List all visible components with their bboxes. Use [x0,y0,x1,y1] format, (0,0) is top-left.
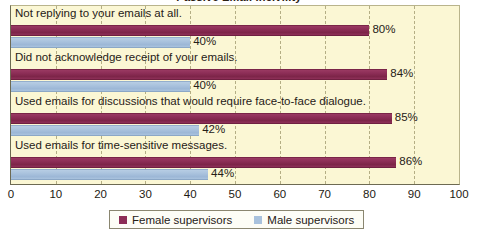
bar-value-label: 40% [190,79,216,91]
bar-row-male: 44% [11,169,459,180]
x-axis: 0102030405060708090100 [10,186,460,202]
bar-value-label: 85% [392,111,418,123]
x-tick-label: 10 [49,188,62,200]
chart-title: Passive Email Incivility [0,0,478,3]
x-tick-label: 20 [94,188,107,200]
x-tick-label: 40 [184,188,197,200]
x-tick-label: 50 [229,188,242,200]
bar-group: Did not acknowledge receipt of your emai… [11,50,459,94]
x-tick-label: 60 [273,188,286,200]
legend-swatch-icon [254,216,262,224]
plot-area: Not replying to your emails at all.80%40… [10,5,460,185]
chart-container: Passive Email Incivility Not replying to… [0,0,478,233]
x-tick-label: 100 [449,188,468,200]
legend-label: Male supervisors [267,214,354,226]
x-tick-label: 90 [408,188,421,200]
bar-row-female: 85% [11,113,459,124]
bar-value-label: 44% [208,167,234,179]
x-tick-label: 30 [139,188,152,200]
bar-row-female: 86% [11,157,459,168]
bar-value-label: 80% [369,23,395,35]
x-tick-label: 0 [8,188,14,200]
bar-row-male: 42% [11,125,459,136]
chart-legend: Female supervisorsMale supervisors [109,210,364,229]
bar-male [11,81,190,92]
bar-value-label: 42% [199,123,225,135]
bar-male [11,37,190,48]
x-tick-label: 80 [363,188,376,200]
category-label: Used emails for time-sensitive messages. [15,139,227,151]
bar-row-female: 80% [11,25,459,36]
bar-group: Not replying to your emails at all.80%40… [11,6,459,50]
bar-row-female: 84% [11,69,459,80]
bar-row-male: 40% [11,37,459,48]
bar-male [11,125,199,136]
bar-group: Used emails for time-sensitive messages.… [11,138,459,182]
bar-group: Used emails for discussions that would r… [11,94,459,138]
category-label: Not replying to your emails at all. [15,7,182,19]
bar-female [11,157,396,168]
legend-swatch-icon [119,216,127,224]
legend-item: Male supervisors [254,214,354,226]
bar-value-label: 84% [387,67,413,79]
bar-value-label: 86% [396,155,422,167]
bar-male [11,169,208,180]
bar-row-male: 40% [11,81,459,92]
bar-groups: Not replying to your emails at all.80%40… [11,6,459,184]
category-label: Did not acknowledge receipt of your emai… [15,51,237,63]
legend-item: Female supervisors [119,214,232,226]
legend-label: Female supervisors [132,214,232,226]
category-label: Used emails for discussions that would r… [15,95,366,107]
x-tick-label: 70 [318,188,331,200]
bar-value-label: 40% [190,35,216,47]
